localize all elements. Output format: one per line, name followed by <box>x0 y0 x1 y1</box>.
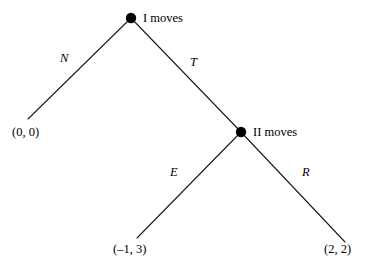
edge-label-t: T <box>190 56 197 69</box>
payoff-label-left: (0, 0) <box>12 126 39 139</box>
payoff-label-right: (2, 2) <box>324 243 351 256</box>
edge-line-r <box>241 132 345 242</box>
edge-label-n: N <box>60 52 68 65</box>
tree-edges-and-nodes <box>0 0 367 271</box>
edge-label-r: R <box>302 166 310 179</box>
node-dot-second <box>236 127 246 137</box>
node-label-second: II moves <box>253 126 297 139</box>
node-label-root: I moves <box>143 12 183 25</box>
game-tree-figure: I moves II moves N T E R (0, 0) (–1, 3) … <box>0 0 367 271</box>
edge-label-e: E <box>170 166 178 179</box>
payoff-label-middle: (–1, 3) <box>113 243 146 256</box>
edge-line-t <box>131 18 241 132</box>
edge-lines <box>28 18 345 242</box>
edge-line-n <box>28 18 131 119</box>
edge-line-e <box>137 132 241 238</box>
node-dot-root <box>126 13 136 23</box>
